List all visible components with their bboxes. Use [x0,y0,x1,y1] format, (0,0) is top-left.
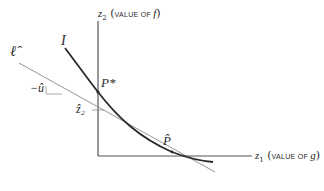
y-axis-sub: 2 [102,14,106,22]
indifference-curve [65,48,213,162]
point-p-hat-dot [171,151,174,154]
angle-mark [46,86,62,94]
y-axis-paren-close: ) [156,7,160,20]
point-p-hat-label: P̂ [163,134,171,147]
y-axis-label: z2 (VALUE OF f) [98,8,161,22]
point-p-star-dot [96,90,99,93]
line-label: ℓ̂ [10,44,16,59]
point-p-star-label: P* [101,76,115,89]
x-axis-paren-close: ) [316,149,320,162]
y-axis-desc: VALUE OF [115,11,154,18]
slope-label: −û [30,82,44,94]
x-axis-desc: VALUE OF [272,153,311,160]
intercept-label: ẑ₂ [76,103,85,115]
x-axis-label: z1 (VALUE OF g) [255,150,320,164]
x-axis-sub: 1 [259,156,263,164]
curve-label: I [61,34,66,48]
